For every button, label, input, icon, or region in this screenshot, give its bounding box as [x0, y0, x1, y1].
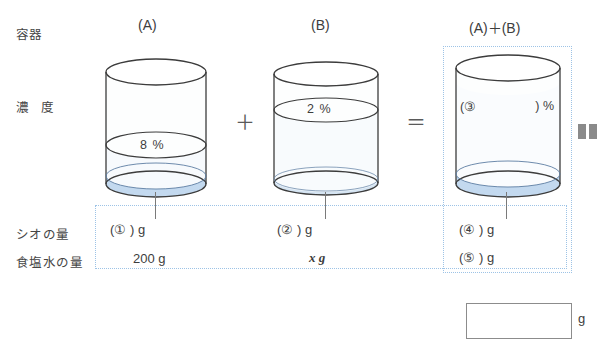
- cell-brine-a: 200 g: [133, 251, 166, 266]
- percent-label-a: 8 %: [140, 138, 165, 152]
- column-header-a: (A): [138, 17, 157, 33]
- cell-salt-ab[interactable]: (④ ) g: [459, 222, 494, 237]
- percent-label-b: 2 %: [307, 102, 332, 116]
- cylinder-a: [100, 52, 212, 204]
- cell-brine-b: x g: [309, 250, 325, 266]
- dotted-table-region: [95, 205, 567, 269]
- pointer-line-a-plus-b: [506, 192, 507, 219]
- cell-salt-a[interactable]: (① ) g: [110, 222, 145, 237]
- column-header-b: (B): [311, 17, 330, 33]
- percent-blank-open-ab: (③: [460, 99, 476, 114]
- percent-blank-close-ab: ) %: [535, 99, 554, 114]
- cylinder-a-plus-b: [450, 48, 566, 204]
- pointer-line-b: [325, 192, 326, 219]
- cell-brine-ab[interactable]: (⑤ ) g: [459, 250, 494, 265]
- cell-salt-b[interactable]: (② ) g: [277, 222, 312, 237]
- operator-equals: ＝: [406, 107, 426, 136]
- pointer-line-a: [155, 192, 156, 219]
- answer-input-box[interactable]: [466, 303, 572, 339]
- percent-label-a-plus-b: (③ ) %: [460, 99, 554, 114]
- operator-plus: ＋: [235, 107, 255, 136]
- cylinder-b: [268, 52, 384, 204]
- column-header-a-plus-b: (A)＋(B): [469, 17, 520, 37]
- pause-bar-left: [578, 124, 586, 139]
- row-label-container: 容器: [16, 24, 43, 43]
- row-label-salt-amount: シオの量: [16, 224, 70, 243]
- row-label-brine-amount: 食塩水の量: [16, 252, 83, 271]
- pause-bar-right: [589, 124, 597, 139]
- answer-unit-label: g: [578, 311, 585, 326]
- pause-icon[interactable]: [578, 124, 598, 139]
- row-label-concentration: 濃 度: [16, 97, 58, 116]
